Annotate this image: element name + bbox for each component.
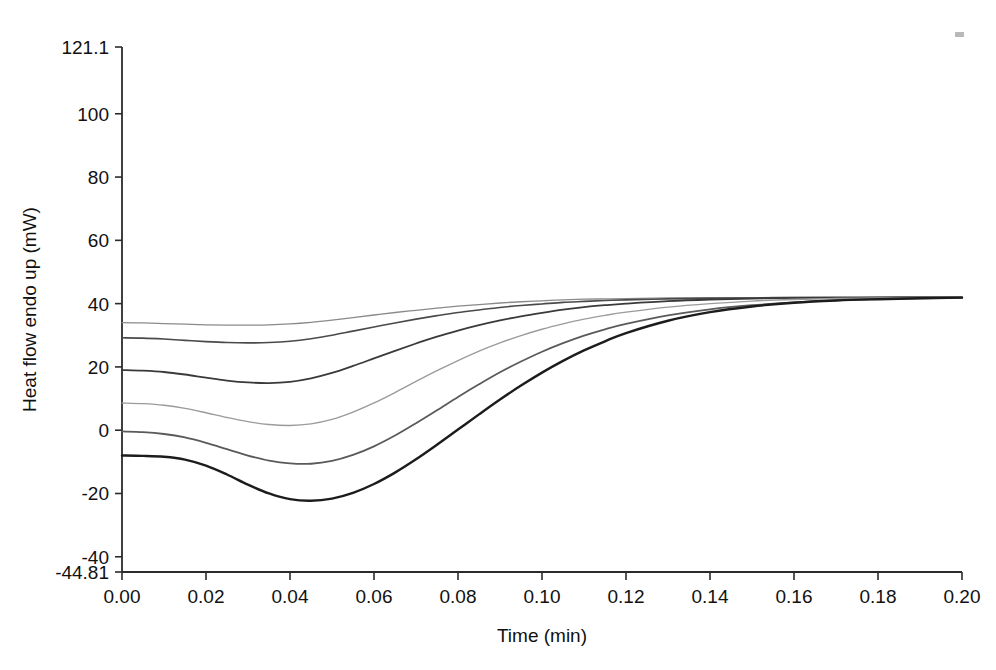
scan-artifact-speck — [955, 32, 964, 37]
y-axis-tick-label: 80 — [88, 167, 109, 188]
y-axis-tick-label: 100 — [77, 104, 109, 125]
x-axis-tick-label: 0.00 — [104, 586, 141, 607]
y-axis-tick-label: 121.1 — [61, 37, 109, 58]
y-axis-tick-label: 60 — [88, 230, 109, 251]
y-axis-tick-label: 20 — [88, 357, 109, 378]
x-axis-tick-label: 0.14 — [692, 586, 729, 607]
x-axis-tick-label: 0.18 — [860, 586, 897, 607]
x-axis-title: Time (min) — [497, 625, 587, 646]
y-axis-title: Heat flow endo up (mW) — [19, 207, 40, 412]
line-chart-canvas: -44.81-40-20020406080100121.10.000.020.0… — [0, 0, 996, 670]
y-axis-tick-label: -20 — [82, 483, 109, 504]
data-series-curve-5 — [122, 298, 962, 464]
x-axis-tick-label: 0.10 — [524, 586, 561, 607]
data-series-curve-6 — [122, 298, 962, 501]
data-series-curve-3 — [122, 297, 962, 383]
x-axis-tick-label: 0.04 — [272, 586, 309, 607]
y-axis-tick-label: 0 — [98, 420, 109, 441]
y-axis-tick-label: -40 — [82, 547, 109, 568]
data-series-curve-4 — [122, 297, 962, 425]
x-axis-tick-label: 0.02 — [188, 586, 225, 607]
x-axis-tick-label: 0.12 — [608, 586, 645, 607]
x-axis-tick-label: 0.20 — [944, 586, 981, 607]
data-series-curve-2 — [122, 297, 962, 343]
chart-figure: -44.81-40-20020406080100121.10.000.020.0… — [0, 0, 996, 670]
x-axis-tick-label: 0.08 — [440, 586, 477, 607]
x-axis-tick-label: 0.06 — [356, 586, 393, 607]
x-axis-tick-label: 0.16 — [776, 586, 813, 607]
y-axis-tick-label: 40 — [88, 294, 109, 315]
